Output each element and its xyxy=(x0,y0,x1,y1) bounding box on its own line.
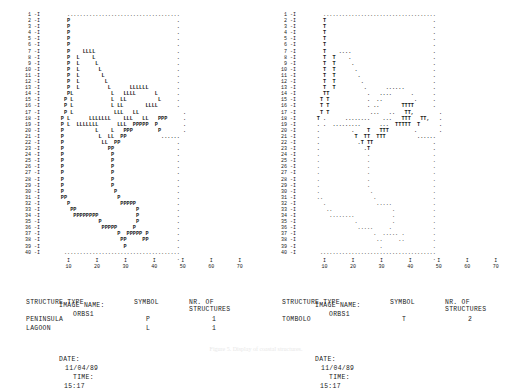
x-tick-label: 60 xyxy=(208,264,214,270)
x-axis-numbers-right: 10203040506070 xyxy=(298,264,502,272)
structure-table-right: STRUCTURE TYPE SYMBOL NR. OF STRUCTURES … xyxy=(282,299,504,325)
cell-structure-type: PENINSULA xyxy=(26,316,63,323)
x-tick-label: 70 xyxy=(493,264,499,270)
x-tick-label: 10 xyxy=(66,264,72,270)
x-tick-label: 40 xyxy=(151,264,157,270)
cell-structure-type: LAGOON xyxy=(26,325,51,332)
x-tick-label: 70 xyxy=(237,264,243,270)
map-grid-right: .................................... T .… xyxy=(298,12,504,262)
table-row: PENINSULAP1 xyxy=(26,316,248,325)
x-tick-label: 40 xyxy=(407,264,413,270)
table-row: LAGOONL1 xyxy=(26,325,248,334)
cell-symbol: T xyxy=(402,316,406,323)
structure-table-left: STRUCTURE TYPE SYMBOL NR. OF STRUCTURES … xyxy=(26,299,248,333)
x-tick-label: 50 xyxy=(436,264,442,270)
x-tick-label: 30 xyxy=(123,264,129,270)
table-body-right: TOMBOLOT2 xyxy=(282,316,504,325)
image-metadata-right: IMAGE NAME: ORBS1 DATE: 11/04/89 TIME: 1… xyxy=(282,274,361,392)
panel-peninsula-lagoon: 1 -I2 -I3 -I4 -I5 -I6 -I7 -I8 -I9 -I10 -… xyxy=(0,0,256,352)
col-nr-structures: NR. OF STRUCTURES xyxy=(445,299,504,313)
map-grid-left: .................................... P .… xyxy=(42,12,248,262)
x-tick-label: 20 xyxy=(350,264,356,270)
date-value: 11/04/89 xyxy=(315,364,354,373)
cell-count: 1 xyxy=(212,325,216,332)
row-label: 40 -I xyxy=(14,250,40,256)
x-tick-label: 10 xyxy=(322,264,328,270)
time-label: TIME: xyxy=(315,373,350,382)
col-structure-type: STRUCTURE TYPE xyxy=(26,299,84,306)
character-map-right: 1 -I2 -I3 -I4 -I5 -I6 -I7 -I8 -I9 -I10 -… xyxy=(270,12,508,262)
time-label: TIME: xyxy=(59,373,94,382)
panel-tombolo: 1 -I2 -I3 -I4 -I5 -I6 -I7 -I8 -I9 -I10 -… xyxy=(256,0,512,352)
table-header-row: STRUCTURE TYPE SYMBOL NR. OF STRUCTURES xyxy=(282,299,504,308)
row-labels-right: 1 -I2 -I3 -I4 -I5 -I6 -I7 -I8 -I9 -I10 -… xyxy=(270,12,296,256)
figure-caption: Figure 5. Display of coastal structures. xyxy=(0,346,512,352)
x-axis-numbers-left: 10203040506070 xyxy=(42,264,246,272)
x-axis-left: IIIIIII 10203040506070 xyxy=(42,258,246,272)
row-labels-left: 1 -I2 -I3 -I4 -I5 -I6 -I7 -I8 -I9 -I10 -… xyxy=(14,12,40,256)
date-label: DATE: xyxy=(59,355,80,364)
table-header-row: STRUCTURE TYPE SYMBOL NR. OF STRUCTURES xyxy=(26,299,248,308)
row-label: 40 -I xyxy=(270,250,296,256)
x-tick-label: 30 xyxy=(379,264,385,270)
cell-structure-type: TOMBOLO xyxy=(282,316,311,323)
cell-count: 2 xyxy=(468,316,472,323)
table-body-left: PENINSULAP1LAGOONL1 xyxy=(26,316,248,333)
x-tick-label: 50 xyxy=(180,264,186,270)
col-symbol: SYMBOL xyxy=(390,299,415,306)
col-symbol: SYMBOL xyxy=(134,299,159,306)
col-nr-structures: NR. OF STRUCTURES xyxy=(189,299,248,313)
x-tick-label: 60 xyxy=(464,264,470,270)
time-value: 15:17 xyxy=(59,382,85,391)
date-label: DATE: xyxy=(315,355,336,364)
x-tick-label: 20 xyxy=(94,264,100,270)
col-structure-type: STRUCTURE TYPE xyxy=(282,299,340,306)
x-axis-right: IIIIIII 10203040506070 xyxy=(298,258,502,272)
character-map-left: 1 -I2 -I3 -I4 -I5 -I6 -I7 -I8 -I9 -I10 -… xyxy=(14,12,252,262)
cell-symbol: P xyxy=(146,316,150,323)
date-value: 11/04/89 xyxy=(59,364,98,373)
time-value: 15:17 xyxy=(315,382,341,391)
cell-symbol: L xyxy=(146,325,150,332)
table-row: TOMBOLOT2 xyxy=(282,316,504,325)
cell-count: 1 xyxy=(212,316,216,323)
